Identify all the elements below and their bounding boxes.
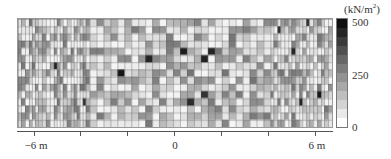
x-tick-6 [315, 131, 316, 136]
x-tick-neg2 [127, 131, 128, 136]
colorbar-label-250: 250 [352, 69, 369, 81]
x-label-neg6: −6 m [24, 139, 47, 151]
pressure-heatmap [17, 18, 333, 128]
colorbar-label-500: 500 [352, 16, 369, 28]
x-tick-2 [221, 131, 222, 136]
x-tick-4 [268, 131, 269, 136]
x-axis-line [17, 131, 333, 132]
x-tick-neg6 [34, 131, 35, 136]
x-label-6: 6 m [309, 139, 326, 151]
x-label-0: 0 [172, 139, 178, 151]
colorbar-label-0: 0 [352, 121, 358, 133]
x-tick-0 [174, 131, 175, 136]
x-tick-neg4 [80, 131, 81, 136]
colorbar [336, 18, 348, 128]
colorbar-unit: (kN/m2) [344, 2, 380, 15]
